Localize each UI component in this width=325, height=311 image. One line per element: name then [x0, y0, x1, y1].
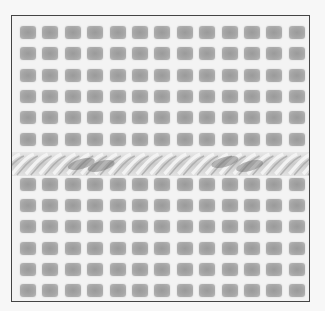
- mesh-hole: [244, 242, 260, 255]
- mesh-hole: [199, 220, 215, 233]
- mesh-hole: [222, 263, 238, 276]
- mesh-hole: [177, 47, 193, 60]
- mesh-hole: [110, 242, 126, 255]
- mesh-hole: [222, 242, 238, 255]
- mesh-hole: [266, 220, 282, 233]
- mesh-hole: [42, 220, 58, 233]
- mesh-hole: [154, 284, 170, 297]
- mesh-hole: [244, 69, 260, 82]
- mesh-hole: [154, 47, 170, 60]
- mesh-hole: [222, 111, 238, 124]
- mesh-hole: [154, 69, 170, 82]
- mesh-hole: [87, 284, 103, 297]
- mesh-hole: [65, 242, 81, 255]
- mesh-hole: [42, 263, 58, 276]
- mesh-hole: [110, 26, 126, 39]
- mesh-hole: [177, 133, 193, 146]
- mesh-hole: [132, 111, 148, 124]
- mesh-hole: [289, 90, 305, 103]
- mesh-hole: [199, 284, 215, 297]
- mesh-hole: [199, 263, 215, 276]
- mesh-hole: [266, 242, 282, 255]
- mesh-hole: [20, 242, 36, 255]
- mesh-hole: [65, 284, 81, 297]
- mesh-hole: [177, 90, 193, 103]
- mesh-hole: [110, 111, 126, 124]
- mesh-hole: [266, 69, 282, 82]
- mesh-hole: [289, 199, 305, 212]
- mesh-hole: [244, 111, 260, 124]
- mesh-hole: [20, 133, 36, 146]
- mesh-hole: [87, 47, 103, 60]
- mesh-hole: [20, 90, 36, 103]
- mesh-hole: [177, 220, 193, 233]
- mesh-hole: [42, 26, 58, 39]
- mesh-hole: [87, 199, 103, 212]
- mesh-hole: [154, 220, 170, 233]
- mesh-hole: [65, 199, 81, 212]
- mesh-hole: [110, 263, 126, 276]
- mesh-hole: [289, 220, 305, 233]
- mesh-hole: [222, 47, 238, 60]
- mesh-hole: [110, 47, 126, 60]
- mesh-hole: [289, 26, 305, 39]
- mesh-hole: [132, 199, 148, 212]
- mesh-hole: [222, 199, 238, 212]
- mesh-hole: [154, 242, 170, 255]
- mesh-hole: [266, 111, 282, 124]
- mesh-hole: [132, 263, 148, 276]
- mesh-hole: [154, 90, 170, 103]
- mesh-hole: [87, 111, 103, 124]
- mesh-hole: [110, 199, 126, 212]
- mesh-hole: [42, 90, 58, 103]
- mesh-hole: [42, 47, 58, 60]
- mesh-hole: [177, 242, 193, 255]
- mesh-hole: [65, 220, 81, 233]
- mesh-hole: [132, 133, 148, 146]
- mesh-hole: [199, 26, 215, 39]
- mesh-hole: [110, 69, 126, 82]
- mesh-hole: [222, 69, 238, 82]
- mesh-hole: [110, 220, 126, 233]
- mesh-hole: [20, 220, 36, 233]
- mesh-hole: [289, 263, 305, 276]
- mesh-hole: [132, 26, 148, 39]
- mesh-hole: [20, 263, 36, 276]
- mesh-hole: [266, 199, 282, 212]
- mesh-hole: [65, 69, 81, 82]
- mesh-hole: [266, 47, 282, 60]
- mesh-hole: [289, 242, 305, 255]
- mesh-hole: [132, 47, 148, 60]
- mesh-hole: [65, 47, 81, 60]
- mesh-hole: [65, 26, 81, 39]
- mesh-hole: [154, 199, 170, 212]
- mesh-hole: [289, 47, 305, 60]
- mesh-hole: [87, 69, 103, 82]
- mesh-hole: [110, 90, 126, 103]
- mesh-hole: [20, 199, 36, 212]
- mesh-hole: [222, 133, 238, 146]
- mesh-hole: [154, 111, 170, 124]
- mesh-hole: [42, 111, 58, 124]
- mesh-hole: [244, 26, 260, 39]
- mesh-hole: [266, 284, 282, 297]
- mesh-hole: [199, 90, 215, 103]
- mesh-hole: [87, 242, 103, 255]
- mesh-hole: [244, 284, 260, 297]
- mesh-hole: [199, 47, 215, 60]
- mesh-hole: [42, 242, 58, 255]
- mesh-hole: [20, 284, 36, 297]
- mesh-hole: [199, 242, 215, 255]
- mesh-hole: [289, 133, 305, 146]
- mesh-hole: [20, 26, 36, 39]
- mesh-hole: [244, 263, 260, 276]
- mesh-hole: [266, 133, 282, 146]
- canvas-frame: Square grid of gray mesh holes with a si…: [11, 15, 310, 302]
- mesh-hole: [20, 47, 36, 60]
- mesh-hole: [177, 199, 193, 212]
- mesh-hole: [244, 220, 260, 233]
- mesh-hole: [87, 263, 103, 276]
- mesh-hole: [177, 284, 193, 297]
- mesh-hole: [65, 263, 81, 276]
- mesh-hole: [244, 47, 260, 60]
